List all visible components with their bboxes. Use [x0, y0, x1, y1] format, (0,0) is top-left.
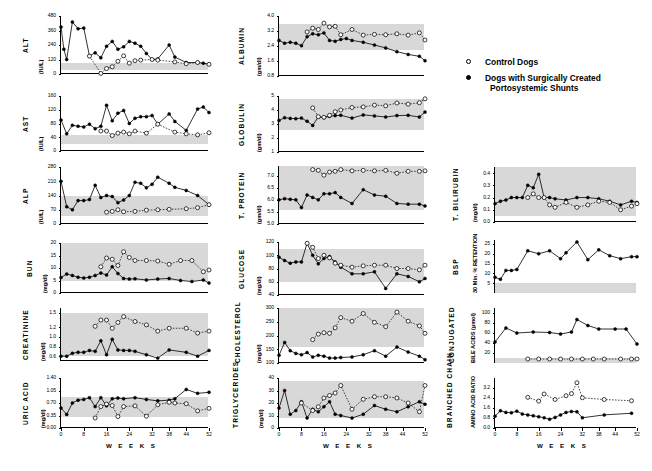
data-point-control	[173, 60, 177, 64]
data-point-shunt	[94, 350, 97, 353]
data-point-control	[350, 407, 354, 411]
plot-area-alp: 070140210280	[60, 167, 208, 224]
data-point-shunt	[586, 324, 589, 327]
x-tick-label: 32	[574, 432, 590, 437]
data-point-shunt	[77, 27, 80, 30]
x-tick-label: 24	[338, 432, 354, 437]
data-point-control	[322, 21, 326, 25]
data-point-control	[133, 404, 137, 408]
data-point-control	[575, 381, 579, 385]
data-point-shunt	[636, 255, 639, 258]
data-point-control	[569, 392, 573, 396]
series-layer-uric-acid	[61, 378, 209, 428]
data-point-control	[564, 394, 568, 398]
data-point-shunt	[60, 180, 63, 183]
data-point-shunt	[300, 353, 303, 356]
data-point-shunt	[77, 125, 80, 128]
data-point-shunt	[82, 125, 85, 128]
data-point-shunt	[94, 405, 97, 408]
series-line-shunt	[495, 242, 637, 279]
data-point-shunt	[351, 355, 354, 358]
data-point-control	[423, 38, 427, 42]
data-point-shunt	[384, 408, 387, 411]
data-point-shunt	[156, 357, 159, 360]
y-axis-unit-albumin: (gm/dl)	[256, 16, 262, 76]
data-point-shunt	[334, 114, 337, 117]
data-point-shunt	[351, 417, 354, 420]
data-point-control	[333, 24, 337, 28]
data-point-control	[105, 402, 109, 406]
data-point-control	[144, 323, 148, 327]
x-tick-label: 16	[316, 432, 332, 437]
data-point-control	[116, 208, 120, 212]
data-point-shunt	[362, 113, 365, 116]
data-point-shunt	[202, 279, 205, 282]
data-point-shunt	[278, 354, 281, 357]
data-point-shunt	[515, 332, 518, 335]
data-point-shunt	[515, 268, 518, 271]
data-point-shunt	[128, 278, 131, 281]
data-point-control	[553, 205, 557, 209]
data-point-control	[167, 400, 171, 404]
data-point-shunt	[317, 33, 320, 36]
data-point-shunt	[128, 122, 131, 125]
data-point-control	[156, 58, 160, 62]
data-point-control	[133, 259, 137, 263]
data-point-control	[531, 192, 535, 196]
y-axis-title-total-bilirubin: T. BILIRUBIN	[452, 167, 459, 222]
data-point-control	[417, 268, 421, 272]
data-point-control	[350, 265, 354, 269]
data-point-shunt	[105, 104, 108, 107]
y-axis-unit-alp: (IU/L)	[38, 167, 44, 224]
data-point-control	[99, 71, 103, 75]
data-point-shunt	[88, 123, 91, 126]
data-point-shunt	[424, 277, 427, 280]
y-axis-unit-creatinine: (mg/dl)	[40, 308, 46, 361]
data-point-control	[167, 262, 171, 266]
y-axis-unit-glucose: (mg/dl)	[256, 242, 262, 295]
data-point-shunt	[559, 257, 562, 260]
data-point-shunt	[424, 59, 427, 62]
data-point-control	[156, 208, 160, 212]
data-point-shunt	[99, 196, 102, 199]
data-point-shunt	[145, 52, 148, 55]
data-point-control	[116, 59, 120, 63]
data-point-shunt	[418, 116, 421, 119]
data-point-shunt	[373, 270, 376, 273]
data-point-control	[608, 200, 612, 204]
data-point-shunt	[373, 349, 376, 352]
data-point-shunt	[196, 355, 199, 358]
data-point-shunt	[111, 338, 114, 341]
legend: Control Dogs Dogs with Surgically Create…	[466, 57, 650, 99]
data-point-shunt	[526, 249, 529, 252]
data-point-shunt	[339, 38, 342, 41]
data-point-shunt	[196, 108, 199, 111]
data-point-shunt	[111, 40, 114, 43]
data-point-shunt	[105, 274, 108, 277]
series-layer-total-protein	[279, 166, 425, 224]
data-point-control	[635, 202, 639, 206]
plot-area-uric-acid: 0.000.350.701.051.4008162432384452	[60, 378, 208, 428]
data-point-shunt	[60, 25, 63, 28]
series-layer-conjugated-bile-acids	[495, 308, 637, 363]
data-point-control	[328, 394, 332, 398]
data-point-shunt	[554, 416, 557, 419]
data-point-shunt	[526, 413, 529, 416]
data-point-control	[316, 28, 320, 32]
data-point-shunt	[311, 32, 314, 35]
data-point-control	[316, 168, 320, 172]
y-tick-label: 10	[240, 413, 274, 418]
series-layer-globulin	[279, 96, 425, 152]
data-point-shunt	[619, 257, 622, 260]
data-point-shunt	[278, 407, 281, 410]
plot-area-total-bilirubin: 0.00.10.20.30.4	[494, 167, 636, 222]
data-point-shunt	[99, 339, 102, 342]
data-point-control	[116, 320, 120, 324]
data-point-control	[328, 256, 332, 260]
data-point-control	[190, 259, 194, 263]
data-point-shunt	[99, 56, 102, 59]
data-point-control	[110, 65, 114, 69]
open-circle-icon	[466, 59, 471, 64]
data-point-shunt	[190, 280, 193, 283]
data-point-control	[167, 326, 171, 330]
